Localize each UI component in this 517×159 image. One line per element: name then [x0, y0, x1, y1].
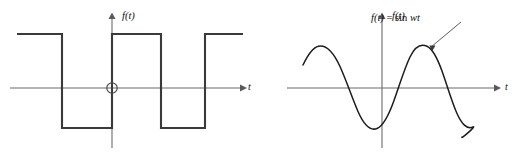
square-wave-panel: f(t) t: [0, 0, 258, 159]
annotation-argument: wt: [407, 12, 420, 23]
annotation-equals-sign: =: [384, 12, 395, 23]
square-wave-trace: [17, 34, 243, 128]
sine-x-axis-label: t: [505, 82, 508, 92]
annotation-function-name: f(t): [371, 12, 384, 23]
sine-equation-annotation: f(t) = sin wt: [371, 13, 420, 24]
t-axis-sine: [287, 84, 501, 91]
sine-wave-panel: f(t) t f(t) = sin wt: [258, 0, 517, 159]
square-y-axis-label: f(t): [122, 11, 135, 22]
figure-container: f(t) t f(t) t f(t) = s: [0, 0, 517, 159]
t-axis-square: [10, 84, 247, 91]
square-x-axis-label: t: [248, 82, 251, 92]
annotation-sin-operator: sin: [395, 12, 407, 23]
sine-wave-trace: [303, 45, 474, 137]
sine-wave-svg: [258, 0, 517, 159]
square-wave-svg: [0, 0, 258, 159]
annotation-leader: [430, 22, 462, 52]
